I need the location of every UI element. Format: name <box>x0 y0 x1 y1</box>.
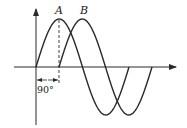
wave-b-label: B <box>79 4 88 17</box>
phase-diagram: A B 90° <box>0 0 187 128</box>
diagram-canvas: A B 90° <box>0 0 187 128</box>
phase-label: 90° <box>37 84 54 95</box>
wave-a-label: A <box>54 4 63 17</box>
